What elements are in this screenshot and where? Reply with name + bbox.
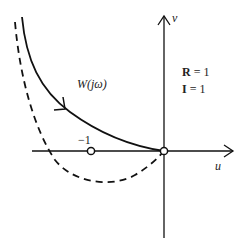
nyquist-diagram bbox=[0, 0, 244, 246]
minus-one-label: −1 bbox=[78, 134, 91, 146]
origin-point bbox=[160, 147, 167, 154]
minus-one-point bbox=[87, 147, 94, 154]
annotation-r-symbol: R bbox=[182, 65, 191, 79]
v-axis-label: v bbox=[172, 12, 177, 24]
u-axis-label: u bbox=[215, 160, 221, 172]
w-curve-label: W(jω) bbox=[77, 78, 107, 90]
annotation-r-value: = 1 bbox=[191, 65, 210, 79]
annotation-r: R = 1 bbox=[182, 66, 209, 78]
annotation-i: I = 1 bbox=[182, 83, 205, 95]
annotation-i-value: = 1 bbox=[187, 82, 206, 96]
dashed-curve bbox=[15, 22, 164, 182]
